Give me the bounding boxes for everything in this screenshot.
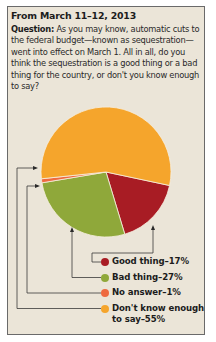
- arrowhead-icon: [151, 225, 155, 230]
- legend-label: Don't know enough to say–55%: [112, 303, 212, 325]
- leader-line: [72, 230, 101, 278]
- bad-swatch-icon: [101, 274, 109, 282]
- dont-know-swatch-icon: [101, 305, 109, 313]
- legend-label: No answer–1%: [112, 287, 212, 298]
- arrowhead-icon: [35, 184, 40, 188]
- arrowhead-icon: [33, 166, 38, 170]
- legend-label: Good thing–17%: [112, 256, 212, 267]
- no-answer-swatch-icon: [101, 289, 109, 297]
- pie-slices: [41, 107, 171, 237]
- good-swatch-icon: [101, 258, 109, 266]
- legend-label: Bad thing–27%: [112, 272, 212, 283]
